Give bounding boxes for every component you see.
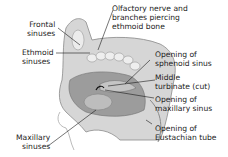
label-sphenoid-opening: Opening of sphenoid sinus (155, 50, 212, 68)
label-eustachian-opening: Opening of Eustachian tube (155, 124, 216, 142)
label-line: sphenoid sinus (155, 59, 212, 68)
label-maxillary-opening: Opening of maxillary sinus (155, 95, 212, 113)
label-line: Eustachian tube (155, 133, 216, 142)
label-line: Ethmoid (22, 48, 54, 57)
label-line: maxillary sinus (155, 104, 212, 113)
label-middle-turbinate: Middle turbinate (cut) (155, 73, 210, 91)
maxillary-sinus-shape (84, 94, 112, 110)
label-line: branches piercing (112, 13, 188, 22)
label-line: Opening of (155, 50, 212, 59)
label-line: turbinate (cut) (155, 82, 210, 91)
label-line: ethmoid bone (112, 22, 188, 31)
label-frontal-sinuses: Frontal sinuses (27, 20, 55, 38)
label-line: Middle (155, 73, 210, 82)
label-line: sinuses (12, 142, 50, 151)
label-olfactory-nerve: Olfactory nerve and branches piercing et… (112, 4, 188, 31)
label-ethmoid-sinuses: Ethmoid sinuses (22, 48, 54, 66)
label-line: Frontal (27, 20, 55, 29)
label-line: Opening of (155, 95, 212, 104)
label-line: sinuses (27, 29, 55, 38)
label-line: sinuses (22, 57, 54, 66)
label-line: Maxillary (12, 133, 50, 142)
label-line: Opening of (155, 124, 216, 133)
label-maxillary-sinuses: Maxillary sinuses (12, 133, 50, 151)
label-line: Olfactory nerve and (112, 4, 188, 13)
